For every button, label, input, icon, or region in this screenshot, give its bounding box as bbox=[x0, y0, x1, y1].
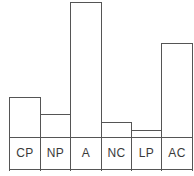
category-label-nc: NC bbox=[101, 137, 132, 170]
label-band-top-rule bbox=[9, 137, 193, 138]
category-label-cp: CP bbox=[9, 137, 41, 170]
x-axis-line bbox=[9, 169, 193, 170]
category-label-lp: LP bbox=[131, 137, 162, 170]
bar-chart: CPNPANCLPAC bbox=[0, 0, 194, 176]
category-label-ac: AC bbox=[161, 137, 193, 170]
category-label-a: A bbox=[70, 137, 102, 170]
category-label-np: NP bbox=[40, 137, 71, 170]
